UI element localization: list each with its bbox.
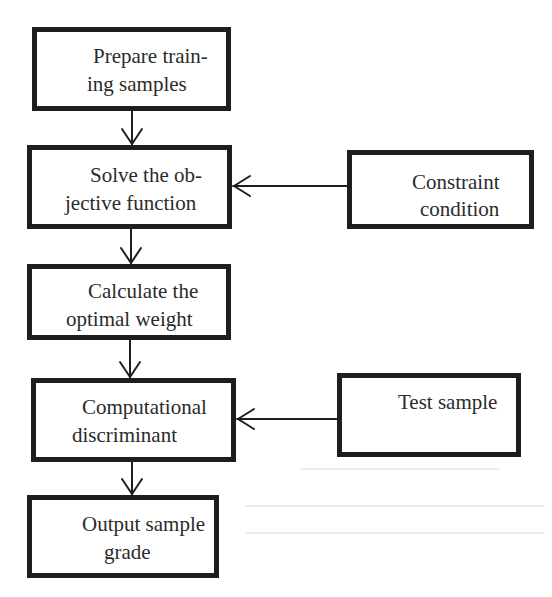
node-label-line2: grade <box>104 539 151 565</box>
bleed-through-line <box>300 468 500 470</box>
node-label-line1: Solve the ob- <box>90 162 202 188</box>
flowchart-canvas: Prepare train- ing samples Solve the ob-… <box>0 0 552 597</box>
node-label-line1: Output sample <box>82 511 205 537</box>
node-test-sample: Test sample <box>337 373 521 457</box>
arrow-down-icon <box>120 340 140 378</box>
node-constraint-condition: Constraint condition <box>347 150 534 229</box>
node-label-line1: Prepare train- <box>93 43 208 69</box>
node-label-line1: Calculate the <box>88 278 198 304</box>
node-label-line2: jective function <box>65 190 196 216</box>
node-label-line2: optimal weight <box>66 306 193 332</box>
arrow-left-icon <box>233 176 347 196</box>
node-label-line2: ing samples <box>87 71 187 97</box>
arrow-down-icon <box>122 111 142 145</box>
bleed-through-line <box>245 505 545 507</box>
bleed-through-line <box>245 532 545 534</box>
node-label-line1: Test sample <box>398 389 497 415</box>
node-solve-objective-function: Solve the ob- jective function <box>27 145 232 229</box>
node-label-line1: Computational <box>82 394 207 420</box>
node-computational-discriminant: Computational discriminant <box>31 378 236 462</box>
node-label-line1: Constraint <box>412 169 500 195</box>
arrow-down-icon <box>121 229 141 264</box>
arrow-left-icon <box>237 409 337 429</box>
node-prepare-training-samples: Prepare train- ing samples <box>32 27 231 111</box>
node-label-line2: condition <box>420 196 499 222</box>
node-label-line2: discriminant <box>72 422 177 448</box>
node-calculate-optimal-weight: Calculate the optimal weight <box>27 264 231 340</box>
arrow-down-icon <box>122 462 142 495</box>
node-output-sample-grade: Output sample grade <box>27 495 219 578</box>
